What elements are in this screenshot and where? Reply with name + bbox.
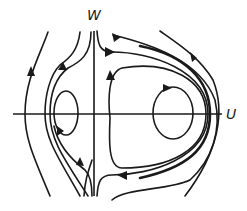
outer-right-streamline-2 [112,35,217,200]
arrow-icon [190,52,197,62]
arrow-icon [117,171,127,180]
arrow-icon [163,84,172,92]
u-axis-label: U [226,106,236,122]
arrow-icon [112,33,121,42]
arrow-icon [105,47,115,57]
right-inner-loop [109,66,206,168]
arrow-icon [76,157,84,166]
right-center-orbit [153,87,193,139]
w-axis-label: W [87,7,102,23]
left-inner-streamline-3 [84,160,92,196]
phase-portrait-diagram: U W [0,0,247,211]
